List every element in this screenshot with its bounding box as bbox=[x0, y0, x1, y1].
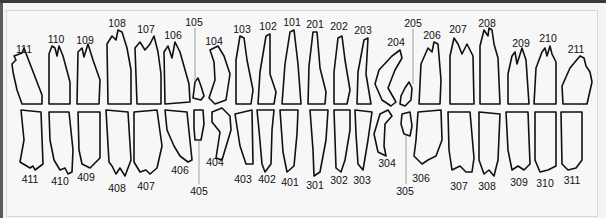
tooth-label-110: 110 bbox=[48, 34, 65, 45]
tooth-label-204: 204 bbox=[387, 37, 405, 48]
tooth-407-icon bbox=[134, 110, 162, 174]
tooth-label-409: 409 bbox=[77, 172, 95, 183]
tooth-102-icon bbox=[258, 34, 276, 104]
tooth-402-icon bbox=[257, 110, 274, 172]
tooth-303-icon bbox=[355, 110, 372, 170]
tooth-103-icon bbox=[236, 36, 253, 104]
tooth-310-icon bbox=[535, 112, 556, 172]
tooth-label-404: 404 bbox=[206, 157, 224, 168]
tooth-label-201: 201 bbox=[306, 19, 324, 30]
tooth-label-309: 309 bbox=[510, 177, 528, 188]
tooth-label-407: 407 bbox=[137, 181, 155, 192]
tooth-label-311: 311 bbox=[564, 175, 581, 186]
tooth-101-icon bbox=[282, 30, 301, 104]
tooth-207-icon bbox=[450, 38, 474, 104]
tooth-label-303: 303 bbox=[353, 175, 371, 186]
tooth-311-icon bbox=[561, 112, 582, 170]
tooth-401-icon bbox=[280, 110, 298, 172]
tooth-301-icon bbox=[310, 110, 328, 176]
tooth-210-icon bbox=[534, 46, 556, 104]
tooth-106-icon bbox=[164, 42, 190, 104]
tooth-label-301: 301 bbox=[306, 180, 324, 191]
tooth-label-408: 408 bbox=[108, 183, 126, 194]
tooth-label-206: 206 bbox=[423, 30, 441, 41]
tooth-208-icon bbox=[480, 28, 500, 104]
tooth-label-103: 103 bbox=[233, 24, 251, 35]
tooth-label-305: 305 bbox=[396, 186, 414, 197]
tooth-403-icon bbox=[235, 110, 253, 164]
tooth-305-icon bbox=[401, 112, 412, 136]
tooth-label-106: 106 bbox=[164, 30, 182, 41]
tooth-411-icon bbox=[20, 110, 43, 170]
tooth-204-icon bbox=[375, 50, 402, 106]
tooth-label-307: 307 bbox=[450, 181, 468, 192]
tooth-307-icon bbox=[448, 112, 474, 172]
tooth-label-304: 304 bbox=[378, 158, 396, 169]
tooth-label-109: 109 bbox=[76, 35, 94, 46]
tooth-label-205: 205 bbox=[404, 18, 422, 29]
tooth-label-402: 402 bbox=[258, 174, 276, 185]
tooth-306-icon bbox=[414, 110, 442, 164]
tooth-label-102: 102 bbox=[259, 21, 277, 32]
tooth-label-104: 104 bbox=[205, 36, 223, 47]
tooth-label-210: 210 bbox=[539, 33, 557, 44]
tooth-label-211: 211 bbox=[568, 44, 585, 55]
tooth-205-icon bbox=[400, 82, 412, 106]
tooth-label-101: 101 bbox=[283, 17, 301, 28]
tooth-104-icon bbox=[209, 46, 230, 104]
tooth-209-icon bbox=[508, 48, 529, 104]
tooth-label-310: 310 bbox=[536, 178, 554, 189]
tooth-108-icon bbox=[107, 30, 131, 104]
tooth-201-icon bbox=[308, 32, 326, 104]
tooth-211-icon bbox=[562, 56, 592, 104]
tooth-304-icon bbox=[374, 110, 392, 156]
tooth-label-111: 111 bbox=[16, 44, 32, 55]
tooth-label-401: 401 bbox=[281, 177, 299, 188]
lower-teeth bbox=[20, 108, 582, 176]
tooth-label-405: 405 bbox=[190, 186, 208, 197]
tooth-309-icon bbox=[506, 112, 530, 170]
tooth-308-icon bbox=[479, 112, 500, 176]
tooth-408-icon bbox=[106, 110, 131, 176]
tooth-406-icon bbox=[165, 110, 192, 162]
tooth-label-403: 403 bbox=[234, 174, 252, 185]
tooth-label-107: 107 bbox=[137, 24, 155, 35]
tooth-label-202: 202 bbox=[330, 21, 348, 32]
tooth-409-icon bbox=[78, 112, 100, 168]
tooth-label-302: 302 bbox=[330, 175, 348, 186]
tooth-label-411: 411 bbox=[22, 174, 39, 185]
tooth-label-108: 108 bbox=[108, 18, 126, 29]
tooth-107-icon bbox=[135, 36, 161, 104]
tooth-206-icon bbox=[419, 42, 441, 104]
tooth-label-308: 308 bbox=[478, 181, 496, 192]
tooth-202-icon bbox=[334, 36, 350, 104]
tooth-110-icon bbox=[49, 46, 70, 104]
tooth-label-209: 209 bbox=[512, 38, 530, 49]
tooth-label-105: 105 bbox=[185, 17, 203, 28]
tooth-410-icon bbox=[49, 112, 73, 174]
tooth-109-icon bbox=[77, 44, 100, 104]
tooth-404-icon bbox=[212, 108, 231, 160]
tooth-label-406: 406 bbox=[171, 165, 189, 176]
upper-teeth bbox=[12, 28, 592, 106]
tooth-302-icon bbox=[334, 110, 350, 172]
tooth-label-203: 203 bbox=[354, 25, 372, 36]
tooth-label-306: 306 bbox=[412, 173, 430, 184]
tooth-label-410: 410 bbox=[51, 176, 69, 187]
tooth-label-207: 207 bbox=[449, 24, 467, 35]
tooth-label-208: 208 bbox=[478, 18, 496, 29]
tooth-203-icon bbox=[357, 38, 371, 104]
tooth-405-icon bbox=[194, 110, 204, 140]
tooth-111-icon bbox=[12, 48, 42, 104]
